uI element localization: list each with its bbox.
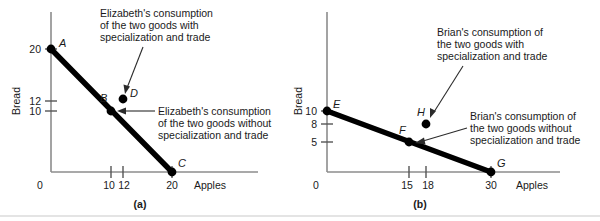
panel-b-xlabel-18: 18 bbox=[422, 179, 434, 191]
panel-b-xlabel-15: 15 bbox=[401, 179, 413, 191]
panel-a: 20 12 10 0 10 12 20 Apples Bread A B C D… bbox=[10, 7, 271, 210]
panel-a-annot-with-line2: of the two goods with bbox=[100, 19, 199, 31]
panel-a-annotation-with: Elizabeth's consumption of the two goods… bbox=[100, 7, 213, 94]
panel-a-annot-with-leader bbox=[127, 47, 143, 88]
panel-a-point-A bbox=[47, 45, 56, 54]
panel-b-annot-with-line2: the two goods with bbox=[437, 38, 524, 50]
panel-b-y-axis-title: Bread bbox=[292, 87, 304, 115]
panel-a-y-axis-title: Bread bbox=[10, 87, 22, 115]
panel-b-point-G bbox=[487, 168, 496, 177]
panel-a-point-C bbox=[168, 168, 177, 177]
panel-b-annot-with-leader bbox=[434, 66, 463, 112]
panel-a-xlabel-12: 12 bbox=[118, 179, 130, 191]
panel-b-xlabel-0: 0 bbox=[313, 179, 319, 191]
panel-a-xlabel-0: 0 bbox=[37, 179, 43, 191]
panel-a-annot-with-line1: Elizabeth's consumption bbox=[100, 7, 213, 19]
panel-b-annotation-with: Brian's consumption of the two goods wit… bbox=[430, 26, 547, 118]
panel-a-annot-without-line3: specialization and trade bbox=[158, 129, 268, 141]
panel-a-point-label-D: D bbox=[130, 87, 138, 99]
panel-b-annot-with-line3: specialization and trade bbox=[437, 50, 547, 62]
panel-b-xlabel-30: 30 bbox=[485, 179, 497, 191]
panel-b-annot-without-line2: the two goods without bbox=[470, 122, 572, 134]
panel-b: 10 8 5 0 15 18 30 Apples Bread E F G H B… bbox=[292, 12, 580, 210]
panel-a-ylabel-10: 10 bbox=[29, 105, 41, 117]
panel-b-point-label-F: F bbox=[399, 124, 407, 136]
panel-b-point-label-E: E bbox=[333, 98, 341, 110]
panel-b-ylabel-5: 5 bbox=[311, 136, 317, 148]
panel-a-xlabel-10: 10 bbox=[103, 179, 115, 191]
panel-a-annot-without-line1: Elizabeth's consumption bbox=[158, 105, 271, 117]
panel-a-point-label-A: A bbox=[58, 37, 66, 49]
panel-a-annot-without-arrowhead bbox=[117, 108, 126, 115]
panel-b-annot-with-line1: Brian's consumption of bbox=[437, 26, 543, 38]
panel-a-annot-with-line3: specialization and trade bbox=[100, 31, 210, 43]
panel-b-point-label-G: G bbox=[497, 157, 506, 169]
panel-a-xlabel-20: 20 bbox=[166, 179, 178, 191]
panel-b-annot-without-line3: specialization and trade bbox=[470, 134, 580, 146]
panel-a-annotation-without: Elizabeth's consumption of the two goods… bbox=[117, 105, 271, 141]
economics-ppf-figure: 20 12 10 0 10 12 20 Apples Bread A B C D… bbox=[0, 0, 600, 221]
panel-a-point-label-C: C bbox=[178, 157, 186, 169]
panel-b-point-E bbox=[323, 107, 332, 116]
panel-b-point-H bbox=[422, 120, 431, 129]
panel-a-x-axis-title: Apples bbox=[194, 179, 226, 191]
panel-a-annot-without-line2: of the two goods without bbox=[158, 117, 271, 129]
panel-b-point-label-H: H bbox=[417, 106, 425, 118]
panel-a-point-label-B: B bbox=[100, 92, 107, 104]
panel-a-ylabel-20: 20 bbox=[29, 43, 41, 55]
panel-a-point-D bbox=[119, 95, 128, 104]
panel-b-point-F bbox=[405, 138, 414, 147]
panel-a-point-B bbox=[107, 107, 116, 116]
panel-b-x-axis-title: Apples bbox=[516, 179, 548, 191]
figure-container: 20 12 10 0 10 12 20 Apples Bread A B C D… bbox=[0, 0, 600, 221]
panel-a-caption: (a) bbox=[134, 198, 147, 210]
panel-b-ylabel-10: 10 bbox=[305, 105, 317, 117]
panel-b-caption: (b) bbox=[413, 198, 426, 210]
panel-b-ylabel-8: 8 bbox=[311, 118, 317, 130]
panel-b-annot-without-leader bbox=[423, 128, 467, 141]
panel-b-annot-without-line1: Brian's consumption of bbox=[470, 110, 576, 122]
panel-b-annotation-without: Brian's consumption of the two goods wit… bbox=[415, 110, 580, 146]
